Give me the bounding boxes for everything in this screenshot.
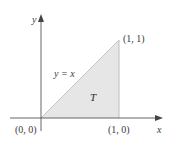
- point-label-bottom-right: (1, 0): [108, 125, 130, 135]
- point-label-origin: (0, 0): [15, 125, 37, 135]
- region-label: T: [90, 92, 96, 102]
- x-axis-arrow-icon: [155, 115, 163, 121]
- y-axis-arrow-icon: [38, 14, 44, 22]
- curve-label: y = x: [54, 69, 75, 79]
- y-axis-label: y: [32, 15, 36, 25]
- point-label-top-right: (1, 1): [123, 34, 145, 44]
- x-axis-label: x: [157, 125, 161, 135]
- coordinate-plane: [0, 0, 174, 144]
